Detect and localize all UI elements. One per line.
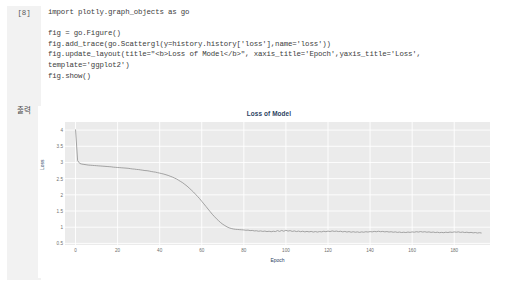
code-line: template='ggplot2') (48, 60, 498, 71)
loss-trace (76, 129, 482, 233)
x-tick-label: 140 (366, 248, 374, 253)
code-line: fig = go.Figure() (48, 28, 498, 39)
y-tick-label: 4 (41, 128, 63, 133)
chart-title: Loss of Model (38, 110, 500, 117)
code-line: import plotly.graph_objects as go (48, 7, 498, 18)
code-line: fig.add_trace(go.Scattergl(y=history.his… (48, 39, 498, 50)
loss-line-chart (65, 122, 490, 245)
x-tick-label: 160 (408, 248, 416, 253)
y-tick-label: 1.5 (41, 209, 63, 214)
notebook-cell: [8] 출력 import plotly.graph_objects as go… (0, 0, 505, 286)
y-axis-ticks: 0.511.522.533.54 (38, 122, 63, 245)
x-tick-label: 120 (324, 248, 332, 253)
y-axis-title: Loss (39, 159, 45, 170)
x-tick-label: 100 (282, 248, 290, 253)
x-tick-label: 80 (241, 248, 246, 253)
x-tick-label: 40 (157, 248, 162, 253)
code-line (48, 18, 498, 29)
cell-execution-count[interactable]: [8] (10, 9, 38, 17)
x-tick-label: 180 (450, 248, 458, 253)
x-tick-label: 60 (199, 248, 204, 253)
y-tick-label: 2 (41, 192, 63, 197)
code-line: fig.show() (48, 71, 498, 82)
plot-panel (65, 122, 490, 245)
x-tick-label: 0 (74, 248, 77, 253)
y-tick-label: 2.5 (41, 176, 63, 181)
plotly-figure: Loss of Model 0.511.522.533.54 020406080… (38, 106, 500, 278)
code-line: fig.update_layout(title="<b>Loss of Mode… (48, 49, 498, 60)
y-tick-label: 0.5 (41, 241, 63, 246)
cell-gutter (7, 6, 41, 280)
code-editor[interactable]: import plotly.graph_objects as gofig = g… (48, 7, 498, 81)
y-tick-label: 1 (41, 225, 63, 230)
x-axis-ticks: 020406080100120140160180 (65, 248, 490, 257)
x-tick-label: 20 (115, 248, 120, 253)
x-axis-title: Epoch (65, 257, 490, 263)
y-tick-label: 3.5 (41, 144, 63, 149)
cell-output-label: 출력 (8, 104, 40, 115)
